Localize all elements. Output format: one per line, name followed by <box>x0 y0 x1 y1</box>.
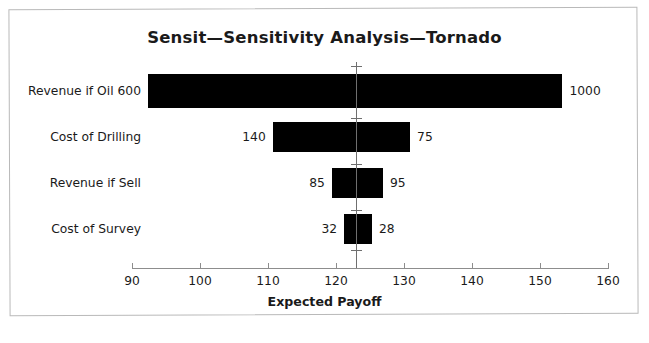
tornado-diagram-figure: Sensit—Sensitivity Analysis—Tornado Reve… <box>0 0 649 343</box>
x-axis-tick <box>404 263 405 269</box>
x-axis-tick-label: 90 <box>124 274 140 288</box>
x-axis-tick-label: 130 <box>392 274 415 288</box>
tornado-row: Revenue if Sell8595 <box>0 160 649 206</box>
tornado-row: Cost of Drilling14075 <box>0 114 649 160</box>
bar-low-value: 140 <box>242 130 265 144</box>
x-axis-tick <box>132 263 133 269</box>
x-axis-tick-label: 160 <box>596 274 619 288</box>
bar-high-value: 75 <box>417 130 433 144</box>
bar-low-value: 32 <box>322 222 338 236</box>
x-axis-tick <box>336 263 337 269</box>
x-axis-tick <box>608 263 609 269</box>
bar-high-value: 95 <box>390 176 406 190</box>
x-axis-tick-label: 110 <box>256 274 279 288</box>
row-label: Cost of Survey <box>51 222 141 236</box>
x-axis-tick <box>540 263 541 269</box>
tornado-bar[interactable] <box>273 122 410 152</box>
row-label: Revenue if Sell <box>50 176 141 190</box>
row-label: Cost of Drilling <box>50 130 141 144</box>
tornado-row: Revenue if Oil 6001000 <box>0 68 649 114</box>
x-axis-tick <box>268 263 269 269</box>
bar-high-value: 28 <box>379 222 395 236</box>
plot-area: Revenue if Oil 6001000Cost of Drilling14… <box>0 0 649 343</box>
spine-tick <box>351 118 362 119</box>
x-axis-line <box>132 268 608 269</box>
bar-low-value: 85 <box>309 176 325 190</box>
x-axis-tick-label: 140 <box>460 274 483 288</box>
x-axis-tick-label: 120 <box>324 274 347 288</box>
tornado-bar[interactable] <box>332 168 383 198</box>
spine-tick <box>351 66 362 67</box>
base-value-spine <box>356 62 357 268</box>
x-axis-title: Expected Payoff <box>0 294 649 309</box>
spine-tick <box>351 164 362 165</box>
bar-high-value: 1000 <box>569 84 600 98</box>
spine-tick <box>351 210 362 211</box>
tornado-bar[interactable] <box>344 214 372 244</box>
spine-tick <box>351 250 362 251</box>
x-axis-tick-label: 100 <box>188 274 211 288</box>
tornado-row: Cost of Survey3228 <box>0 206 649 252</box>
row-label: Revenue if Oil 600 <box>28 84 141 98</box>
x-axis-tick <box>200 263 201 269</box>
x-axis-tick-label: 150 <box>528 274 551 288</box>
x-axis-tick <box>472 263 473 269</box>
